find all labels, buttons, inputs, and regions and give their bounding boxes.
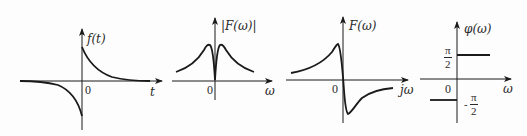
origin-label-3: 0 [332, 83, 338, 95]
origin-label-2: 0 [207, 84, 213, 96]
jomega-label: jω [400, 84, 414, 96]
omega-label-2: ω [265, 85, 275, 97]
phase-label: φ(ω) [464, 23, 492, 35]
pi-over-2-label: π 2 [444, 45, 452, 70]
f-curve-positive [82, 47, 150, 81]
origin-label-1: 0 [85, 84, 91, 96]
f-t-label: f(t) [87, 33, 106, 45]
neg-pi-over-2-label: - π 2 [470, 92, 478, 117]
omega-label-4: ω [503, 83, 513, 95]
spectrum-curve [291, 44, 393, 114]
spectrum-label: F(ω) [349, 20, 376, 32]
t-label: t [150, 86, 155, 98]
signal-spectrum-figure: f(t) t 0 |F(ω)| ω 0 F(ω) jω 0 φ(ω) ω 0 π… [0, 0, 527, 136]
magnitude-label: |F(ω)| [221, 20, 257, 32]
origin-label-4: 0 [445, 83, 451, 95]
panel-spectrum [286, 17, 408, 123]
f-curve-negative [20, 81, 82, 116]
